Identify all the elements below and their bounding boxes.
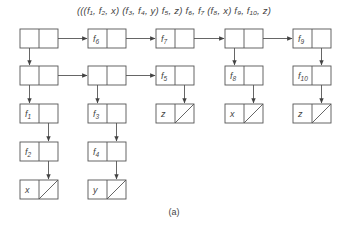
list-node: f8 [225, 66, 263, 85]
list-node: f1 [20, 104, 58, 123]
list-node: x [20, 180, 58, 199]
list-node: x [225, 104, 263, 123]
list-node [88, 66, 126, 85]
node-label: y [92, 185, 98, 195]
list-node [20, 29, 58, 48]
list-node: f6 [88, 29, 126, 48]
figure-caption: (a) [0, 207, 348, 217]
list-node: z [293, 104, 331, 123]
list-node: f5 [156, 66, 194, 85]
list-node [20, 66, 58, 85]
list-node: z [156, 104, 194, 123]
list-node: f4 [88, 142, 126, 161]
node-label: z [160, 109, 166, 119]
list-node: f7 [156, 29, 194, 48]
list-node: f2 [20, 142, 58, 161]
node-label: z [297, 109, 303, 119]
list-node [225, 29, 263, 48]
list-node: f9 [293, 29, 331, 48]
node-label: x [229, 109, 235, 119]
list-node: f3 [88, 104, 126, 123]
linked-list-diagram: f6f7f9f5f8f10f1f3zxzf2f4xy [0, 0, 348, 229]
list-node: f10 [293, 66, 331, 85]
list-node: y [88, 180, 126, 199]
node-label: x [24, 185, 30, 195]
